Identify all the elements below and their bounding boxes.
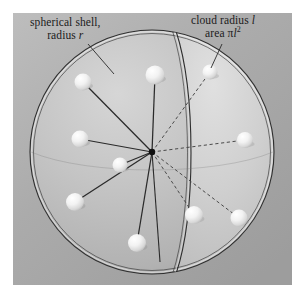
label-shell-line1: spherical shell, — [30, 16, 101, 28]
label-cloud-area-text: area — [205, 27, 228, 39]
label-cloud-line2: area πl2 — [191, 27, 255, 40]
particle-inner-left — [113, 158, 128, 173]
particle-right — [237, 132, 253, 148]
label-shell-radius-text: radius — [47, 29, 79, 41]
figure-root: spherical shell, radius r cloud radius l… — [0, 0, 306, 300]
label-shell-line2: radius r — [30, 29, 101, 42]
particle-upper-left — [75, 74, 92, 91]
label-cloud-area-exponent: 2 — [237, 25, 241, 34]
label-spherical-shell: spherical shell, radius r — [30, 16, 101, 42]
label-shell-radius-symbol: r — [79, 29, 84, 41]
label-cloud-radius-text: cloud radius — [191, 14, 252, 26]
particle-bottom — [128, 234, 146, 252]
particle-lower-left — [66, 193, 84, 211]
label-cloud-line1: cloud radius l — [191, 14, 255, 26]
particle-top — [146, 66, 165, 85]
label-cloud-radius-symbol: l — [252, 14, 255, 26]
spherical-shell-diagram — [0, 0, 306, 300]
center-dot — [149, 149, 155, 155]
label-cloud-radius: cloud radius l area πl2 — [191, 14, 255, 40]
particle-left — [72, 131, 89, 148]
particle-top-right — [203, 65, 218, 80]
particle-lower-right — [231, 210, 248, 227]
particle-lower-mid — [185, 206, 203, 224]
